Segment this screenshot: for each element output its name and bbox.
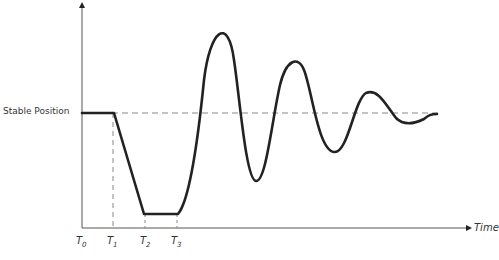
t2-label: T2 xyxy=(140,235,151,249)
stable-position-label: Stable Position xyxy=(3,106,69,116)
x-axis-arrow-icon xyxy=(466,225,472,231)
time-axis-label: Time xyxy=(474,222,499,233)
displacement-curve xyxy=(82,33,437,214)
t1-label: T1 xyxy=(107,235,118,249)
t0-label: T0 xyxy=(76,235,87,249)
t3-label: T3 xyxy=(171,235,182,249)
y-axis-arrow-icon xyxy=(79,2,85,8)
